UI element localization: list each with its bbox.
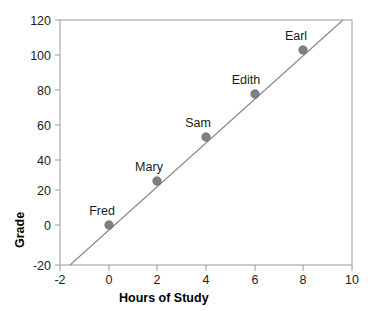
data-point-label-sam: Sam	[185, 116, 211, 130]
data-point-label-earl: Earl	[285, 29, 307, 43]
y-tick-label-120: 120	[30, 14, 51, 28]
y-tick-label-40: 40	[37, 154, 51, 168]
x-tick-label-4: 4	[203, 273, 210, 287]
data-point-edith[interactable]	[251, 90, 259, 98]
data-point-label-mary: Mary	[135, 160, 164, 174]
chart-canvas: 120 100 80 60 40 20 0 -20 -2 0 2 4 6 8	[0, 0, 378, 311]
data-point-label-edith: Edith	[232, 73, 261, 87]
x-tick-label-10: 10	[345, 273, 359, 287]
y-tick-label-0: 0	[44, 219, 51, 233]
x-axis-tick-labels: -2 0 2 4 6 8 10	[54, 273, 359, 287]
data-point-labels: Fred Mary Sam Edith Earl	[89, 29, 307, 218]
x-tick-label-minus2: -2	[54, 273, 65, 287]
x-axis-ticks	[60, 265, 352, 271]
data-points	[105, 46, 307, 229]
y-axis-title: Grade	[13, 212, 27, 248]
x-tick-label-6: 6	[252, 273, 259, 287]
y-axis-tick-labels: 120 100 80 60 40 20 0 -20	[30, 14, 51, 273]
scatter-chart: 120 100 80 60 40 20 0 -20 -2 0 2 4 6 8	[0, 0, 378, 311]
x-tick-label-8: 8	[300, 273, 307, 287]
y-axis-ticks	[55, 20, 60, 265]
data-point-fred[interactable]	[105, 221, 113, 229]
y-tick-label-20: 20	[37, 184, 51, 198]
x-tick-label-0: 0	[106, 273, 113, 287]
data-point-mary[interactable]	[153, 177, 161, 185]
x-axis-title: Hours of Study	[119, 291, 209, 305]
y-tick-label-minus20: -20	[33, 259, 51, 273]
y-tick-label-60: 60	[37, 119, 51, 133]
y-tick-label-80: 80	[37, 84, 51, 98]
data-point-earl[interactable]	[299, 46, 307, 54]
data-point-sam[interactable]	[202, 133, 210, 141]
x-tick-label-2: 2	[154, 273, 161, 287]
y-tick-label-100: 100	[30, 49, 51, 63]
data-point-label-fred: Fred	[89, 204, 115, 218]
